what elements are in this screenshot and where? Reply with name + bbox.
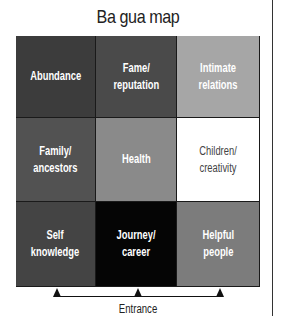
cell-label: Family/ ancestors [33,143,77,177]
page-divider [272,0,273,316]
entrance-label: Entrance [16,302,260,316]
cell-journey-career: Journey/ career [96,202,177,287]
cell-children-creativity: Children/ creativity [177,118,260,202]
ba-gua-grid: Abundance Fame/ reputation Intimate rela… [16,36,260,287]
cell-self-knowledge: Self knowledge [16,202,96,287]
cell-label: Children/ creativity [199,143,236,177]
entrance-line [57,296,221,297]
cell-health: Health [96,118,177,202]
entrance-text: Entrance [119,302,157,316]
cell-label: Helpful people [202,227,234,261]
cell-fame-reputation: Fame/ reputation [96,36,177,118]
cell-label: Intimate relations [198,60,237,94]
cell-label: Health [122,151,151,168]
cell-label: Journey/ career [116,227,155,261]
cell-family-ancestors: Family/ ancestors [16,118,96,202]
cell-label: Fame/ reputation [113,60,159,94]
cell-label: Abundance [30,68,81,85]
cell-helpful-people: Helpful people [177,202,260,287]
cell-abundance: Abundance [16,36,96,118]
cell-intimate-relations: Intimate relations [177,36,260,118]
cell-label: Self knowledge [31,227,79,261]
diagram-title: Ba gua map [34,6,241,28]
